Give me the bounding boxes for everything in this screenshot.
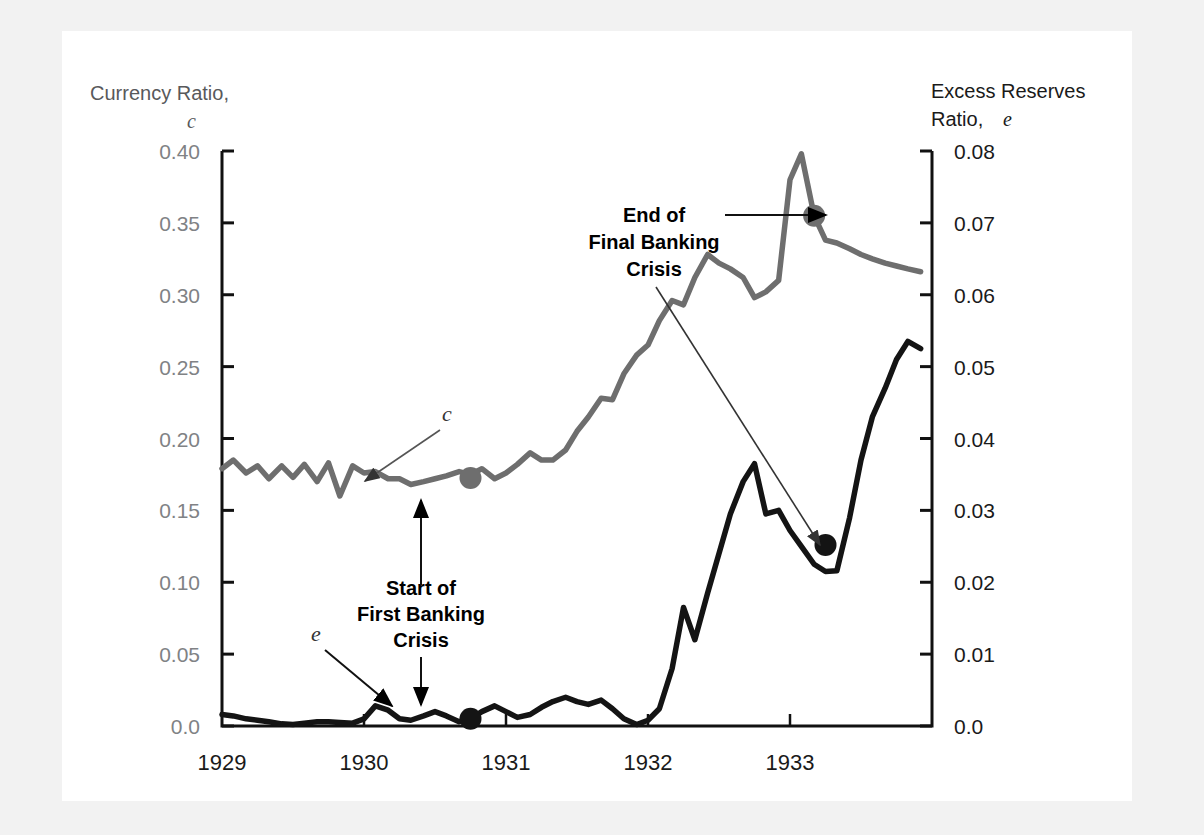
start-crisis-annotation-line3: Crisis: [393, 629, 449, 651]
left-axis-tick-label: 0.10: [159, 571, 200, 594]
right-axis-tick-label: 0.01: [954, 643, 995, 666]
left-axis-tick-label: 0.40: [159, 140, 200, 163]
left-axis-tick-label: 0.30: [159, 284, 200, 307]
right-axis-tick-label: 0.06: [954, 284, 995, 307]
left-axis-tick-label: 0.0: [171, 715, 200, 738]
right-axis-tick-label: 0.04: [954, 428, 995, 451]
left-axis-title: Currency Ratio,: [90, 82, 229, 104]
series-line-e: [222, 341, 921, 724]
right-axis-tick-label: 0.08: [954, 140, 995, 163]
chart-canvas: 0.400.350.300.250.200.150.100.050.00.080…: [0, 0, 1204, 835]
data-marker-e: [460, 708, 482, 730]
end-crisis-annotation-line3: Crisis: [626, 258, 682, 280]
right-axis-tick-label: 0.05: [954, 356, 995, 379]
right-axis-tick-label: 0.0: [954, 715, 983, 738]
data-marker-c: [460, 467, 482, 489]
left-axis-tick-label: 0.15: [159, 499, 200, 522]
data-marker-e: [815, 534, 837, 556]
x-axis-tick-label: 1930: [340, 750, 389, 775]
right-axis-tick-label: 0.02: [954, 571, 995, 594]
series-label-c: c: [442, 401, 452, 426]
x-axis-tick-label: 1929: [198, 750, 247, 775]
end-crisis-annotation-line1: End of: [623, 204, 686, 226]
start-crisis-annotation-line2: First Banking: [357, 603, 485, 625]
series-label-c-leader: [365, 430, 440, 481]
right-axis-title: Excess Reserves: [931, 80, 1086, 102]
right-axis-tick-label: 0.07: [954, 212, 995, 235]
left-axis-tick-label: 0.05: [159, 643, 200, 666]
left-axis-title-symbol: c: [187, 110, 196, 132]
right-axis-title-symbol: e: [1003, 108, 1012, 130]
x-axis-tick-label: 1932: [624, 750, 673, 775]
figure-background: 0.400.350.300.250.200.150.100.050.00.080…: [0, 0, 1204, 835]
series-label-e-leader: [325, 650, 392, 706]
end-crisis-annotation-line2: Final Banking: [588, 231, 719, 253]
right-axis-title-line2: Ratio,: [931, 108, 983, 130]
series-label-e: e: [311, 621, 321, 646]
x-axis-tick-label: 1931: [482, 750, 531, 775]
x-axis-tick-label: 1933: [766, 750, 815, 775]
left-axis-tick-label: 0.35: [159, 212, 200, 235]
right-axis-tick-label: 0.03: [954, 499, 995, 522]
left-axis-tick-label: 0.20: [159, 428, 200, 451]
left-axis-tick-label: 0.25: [159, 356, 200, 379]
end-crisis-arrow-to-e: [656, 287, 820, 545]
line-chart: 0.400.350.300.250.200.150.100.050.00.080…: [0, 0, 1204, 835]
